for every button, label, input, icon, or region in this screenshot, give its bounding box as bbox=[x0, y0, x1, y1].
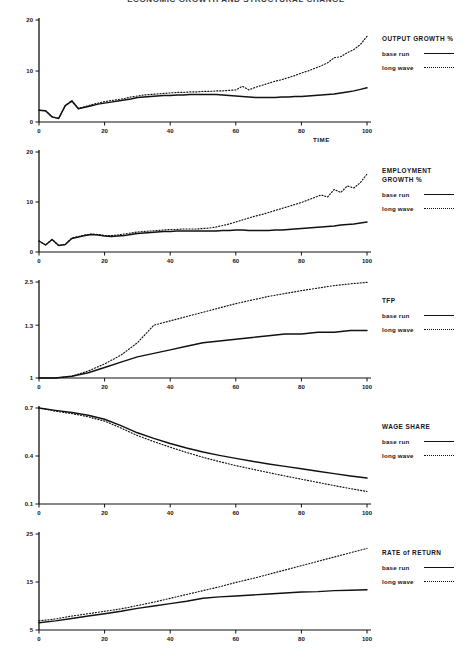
y-tick-label: 20 bbox=[26, 149, 33, 155]
x-tick-label: 40 bbox=[167, 384, 174, 390]
figure-title: ECONOMIC GROWTH AND STRUCTURAL CHANGE bbox=[0, 0, 472, 4]
x-tick-label: 60 bbox=[232, 258, 239, 264]
legend-entry-label: base run bbox=[382, 438, 422, 445]
x-tick-label: 20 bbox=[101, 636, 108, 642]
chart-panel-0: 02040608010001020OUTPUT GROWTH %base run… bbox=[0, 8, 472, 154]
chart-panel-2: 02040608010011.32.5TFPbase runlong wave bbox=[0, 270, 472, 410]
legend-swatch-dotted bbox=[422, 326, 456, 333]
legend-swatch-solid bbox=[422, 50, 456, 57]
x-tick-label: 40 bbox=[167, 258, 174, 264]
legend-entry-label: long wave bbox=[382, 205, 422, 212]
x-tick-label: 40 bbox=[167, 128, 174, 134]
legend-swatch-solid bbox=[422, 564, 456, 571]
y-tick-label: 0.1 bbox=[25, 501, 34, 507]
y-tick-label: 10 bbox=[26, 199, 33, 205]
x-tick-label: 40 bbox=[167, 510, 174, 516]
plot-wrap-3: 0204060801000.10.40.7 bbox=[0, 396, 472, 536]
legend-entry-base-run: base run bbox=[382, 564, 456, 571]
plot-wrap-0: 02040608010001020 bbox=[0, 8, 472, 154]
x-tick-label: 100 bbox=[362, 384, 373, 390]
series-long-wave bbox=[39, 282, 367, 378]
x-tick-label: 100 bbox=[362, 510, 373, 516]
y-tick-label: 15 bbox=[26, 579, 33, 585]
x-tick-label: 20 bbox=[101, 510, 108, 516]
plot-area-4: 02040608010051525 bbox=[0, 522, 472, 662]
x-tick-label: 100 bbox=[362, 128, 373, 134]
legend-entry-base-run: base run bbox=[382, 438, 456, 445]
legend-swatch-solid bbox=[422, 312, 456, 319]
plot-area-2: 02040608010011.32.5 bbox=[0, 270, 472, 410]
figure-root: ECONOMIC GROWTH AND STRUCTURAL CHANGE 02… bbox=[0, 0, 472, 667]
y-tick-label: 2.5 bbox=[25, 279, 34, 285]
x-tick-label: 60 bbox=[232, 384, 239, 390]
y-tick-label: 0.4 bbox=[25, 453, 34, 459]
series-long-wave bbox=[39, 408, 367, 492]
legend-title: RATE of RETURN bbox=[382, 548, 456, 557]
series-base-run bbox=[39, 590, 367, 623]
series-long-wave bbox=[39, 174, 367, 246]
x-tick-label: 20 bbox=[101, 384, 108, 390]
legend-entry-long-wave: long wave bbox=[382, 205, 456, 212]
plot-wrap-4: 02040608010051525 bbox=[0, 522, 472, 662]
legend-entry-label: base run bbox=[382, 191, 422, 198]
legend-entry-long-wave: long wave bbox=[382, 326, 456, 333]
legend-entry-base-run: base run bbox=[382, 191, 456, 198]
x-tick-label: 0 bbox=[37, 258, 41, 264]
x-tick-label: 0 bbox=[37, 128, 41, 134]
legend-title: GROWTH % bbox=[382, 175, 456, 184]
y-tick-label: 10 bbox=[26, 68, 33, 74]
legend-swatch-dotted bbox=[422, 578, 456, 585]
plot-area-3: 0204060801000.10.40.7 bbox=[0, 396, 472, 536]
series-long-wave bbox=[39, 548, 367, 620]
legend-entry-label: base run bbox=[382, 50, 422, 57]
series-base-run bbox=[39, 330, 367, 378]
legend-4: RATE of RETURNbase runlong wave bbox=[382, 548, 456, 585]
legend-entry-label: long wave bbox=[382, 326, 422, 333]
x-tick-label: 80 bbox=[298, 258, 305, 264]
y-tick-label: 0 bbox=[30, 249, 34, 255]
y-tick-label: 0 bbox=[30, 119, 34, 125]
y-tick-label: 25 bbox=[26, 531, 33, 537]
legend-swatch-dotted bbox=[422, 452, 456, 459]
legend-entry-long-wave: long wave bbox=[382, 578, 456, 585]
x-tick-label: 80 bbox=[298, 128, 305, 134]
chart-panel-3: 0204060801000.10.40.7WAGE SHAREbase runl… bbox=[0, 396, 472, 536]
legend-title: WAGE SHARE bbox=[382, 422, 456, 431]
legend-swatch-dotted bbox=[422, 205, 456, 212]
y-tick-label: 1.3 bbox=[25, 323, 34, 329]
legend-3: WAGE SHAREbase runlong wave bbox=[382, 422, 456, 459]
legend-title: OUTPUT GROWTH % bbox=[382, 34, 456, 43]
series-base-run bbox=[39, 408, 367, 478]
plot-area-1: 02040608010001020 bbox=[0, 140, 472, 284]
series-base-run bbox=[39, 222, 367, 246]
legend-1: EMPLOYMENTGROWTH %base runlong wave bbox=[382, 166, 456, 212]
legend-entry-label: long wave bbox=[382, 64, 422, 71]
legend-entry-label: base run bbox=[382, 312, 422, 319]
plot-wrap-2: 02040608010011.32.5 bbox=[0, 270, 472, 410]
x-tick-label: 20 bbox=[101, 258, 108, 264]
plot-area-0: 02040608010001020 bbox=[0, 8, 472, 154]
legend-title: EMPLOYMENT bbox=[382, 166, 456, 175]
x-tick-label: 40 bbox=[167, 636, 174, 642]
y-tick-label: 5 bbox=[30, 627, 34, 633]
x-tick-label: 60 bbox=[232, 510, 239, 516]
legend-entry-label: base run bbox=[382, 564, 422, 571]
plot-wrap-1: 02040608010001020 bbox=[0, 140, 472, 284]
chart-panel-1: 02040608010001020EMPLOYMENTGROWTH %base … bbox=[0, 140, 472, 284]
legend-entry-label: long wave bbox=[382, 578, 422, 585]
y-tick-label: 20 bbox=[26, 17, 33, 23]
x-tick-label: 60 bbox=[232, 636, 239, 642]
legend-entry-long-wave: long wave bbox=[382, 452, 456, 459]
legend-0: OUTPUT GROWTH %base runlong wave bbox=[382, 34, 456, 71]
x-tick-label: 100 bbox=[362, 258, 373, 264]
x-tick-label: 60 bbox=[232, 128, 239, 134]
legend-swatch-dotted bbox=[422, 64, 456, 71]
y-tick-label: 1 bbox=[30, 375, 34, 381]
series-base-run bbox=[39, 88, 367, 119]
y-tick-label: 0.7 bbox=[25, 405, 34, 411]
legend-title: TFP bbox=[382, 296, 456, 305]
chart-panel-4: 02040608010051525RATE of RETURNbase runl… bbox=[0, 522, 472, 662]
legend-swatch-solid bbox=[422, 438, 456, 445]
legend-entry-base-run: base run bbox=[382, 312, 456, 319]
x-tick-label: 0 bbox=[37, 636, 41, 642]
